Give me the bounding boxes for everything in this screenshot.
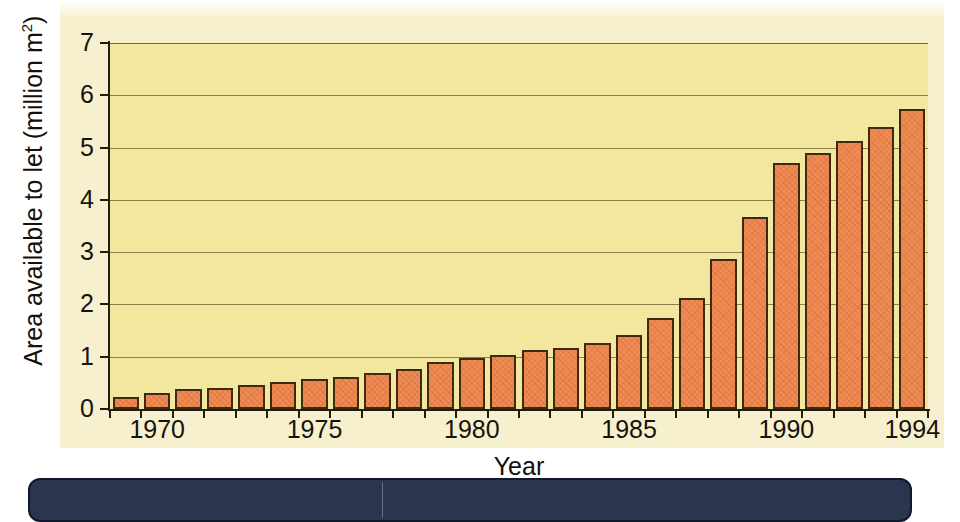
x-axis-title: Year — [110, 452, 928, 481]
bar-1993 — [868, 127, 894, 409]
y-axis-title-superscript: 2 — [18, 24, 35, 32]
bar-1971 — [175, 389, 201, 409]
y-tick-label-2: 2 — [60, 291, 94, 316]
y-tick-label-4: 4 — [60, 187, 94, 212]
x-tick-label-1970: 1970 — [129, 417, 185, 442]
x-tick-minor-23 — [833, 411, 835, 418]
y-tick-label-5: 5 — [60, 135, 94, 160]
x-tick-minor-5 — [266, 411, 268, 418]
bar-1985 — [616, 335, 642, 409]
bar-1989 — [742, 217, 768, 409]
y-tick-0 — [100, 408, 109, 410]
x-tick-minor-9 — [392, 411, 394, 418]
y-tick-5 — [100, 147, 109, 149]
bar-1970 — [144, 393, 170, 409]
x-tick-minor-15 — [581, 411, 583, 418]
bar-1994 — [899, 109, 925, 409]
bar-1982 — [522, 350, 548, 409]
y-tick-4 — [100, 199, 109, 201]
x-tick-minor-10 — [424, 411, 426, 418]
bar-1980 — [459, 358, 485, 409]
x-tick-minor-20 — [738, 411, 740, 418]
x-tick-label-1990: 1990 — [759, 417, 815, 442]
bar-1981 — [490, 355, 516, 409]
bar-1976 — [333, 377, 359, 409]
y-tick-label-6: 6 — [60, 82, 94, 107]
x-tick-minor-19 — [707, 411, 709, 418]
bar-1977 — [364, 373, 390, 409]
y-tick-2 — [100, 303, 109, 305]
bar-1973 — [238, 385, 264, 409]
bar-1990 — [773, 163, 799, 409]
x-tick-minor-4 — [235, 411, 237, 418]
y-tick-7 — [100, 42, 109, 44]
bar-1984 — [584, 343, 610, 409]
bar-1978 — [396, 369, 422, 409]
x-tick-label-1980: 1980 — [444, 417, 500, 442]
plot-area — [110, 43, 928, 409]
x-tick-minor-18 — [675, 411, 677, 418]
y-tick-3 — [100, 251, 109, 253]
y-axis-title-tail: ) — [19, 16, 47, 24]
x-tick-label-1985: 1985 — [601, 417, 657, 442]
bar-1969 — [113, 397, 139, 409]
x-tick-minor-3 — [203, 411, 205, 418]
y-axis-title-text: Area available to let (million m — [19, 32, 47, 365]
bar-1975 — [301, 379, 327, 409]
y-tick-label-0: 0 — [60, 396, 94, 421]
bar-1974 — [270, 382, 296, 409]
bar-1983 — [553, 348, 579, 409]
bottom-caption-strip — [28, 478, 912, 522]
y-tick-label-1: 1 — [60, 344, 94, 369]
bar-1972 — [207, 388, 233, 409]
y-axis-title: Area available to let (million m2) — [18, 0, 47, 426]
y-tick-label-7: 7 — [60, 30, 94, 55]
bar-1987 — [679, 298, 705, 409]
bar-1979 — [427, 362, 453, 409]
bars-group — [110, 43, 928, 409]
x-tick-minor-0 — [109, 411, 111, 418]
y-tick-1 — [100, 356, 109, 358]
bar-1986 — [647, 318, 673, 410]
bar-1992 — [836, 141, 862, 409]
x-tick-minor-24 — [864, 411, 866, 418]
bar-1991 — [805, 153, 831, 409]
x-tick-minor-8 — [361, 411, 363, 418]
x-tick-minor-14 — [549, 411, 551, 418]
x-tick-label-1975: 1975 — [287, 417, 343, 442]
bar-1988 — [710, 259, 736, 409]
y-tick-6 — [100, 94, 109, 96]
y-tick-label-3: 3 — [60, 239, 94, 264]
x-tick-label-1994: 1994 — [884, 417, 940, 442]
caption-divider — [382, 482, 383, 518]
x-tick-minor-13 — [518, 411, 520, 418]
